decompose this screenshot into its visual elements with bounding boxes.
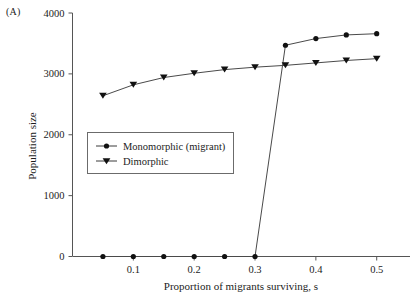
data-point-marker [100,254,105,259]
series-dimorphic [99,56,380,99]
x-axis-title: Proportion of migrants surviving, s [164,280,318,292]
data-point-marker [344,32,349,37]
y-tick-label: 3000 [44,68,65,79]
data-point-marker [374,31,379,36]
legend-marker-circle [104,143,109,148]
y-tick-label: 4000 [44,8,65,19]
data-point-marker [192,254,197,259]
data-point-marker [131,254,136,259]
figure-panel-a: (A) 01000200030004000 0.10.20.30.40.5 Pr… [0,0,415,301]
data-point-marker [252,254,257,259]
data-point-marker [161,254,166,259]
legend-label-monomorphic: Monomorphic (migrant) [123,141,226,153]
y-axis-title: Population size [26,112,38,180]
x-axis-ticks: 0.10.20.30.40.5 [127,257,383,275]
x-tick-label: 0.2 [188,264,201,275]
x-tick-label: 0.1 [127,264,140,275]
data-point-marker [313,36,318,41]
data-point-marker [130,82,138,88]
y-tick-label: 1000 [44,190,65,201]
x-tick-label: 0.4 [309,264,323,275]
population-size-line-chart: 01000200030004000 0.10.20.30.40.5 Propor… [0,0,415,301]
chart-legend: Monomorphic (migrant) Dimorphic [88,133,234,174]
series-path [103,59,377,96]
x-tick-label: 0.3 [248,264,261,275]
data-point-marker [283,43,288,48]
y-tick-label: 0 [59,251,64,262]
legend-box [88,133,234,174]
legend-label-dimorphic: Dimorphic [123,156,169,167]
y-tick-label: 2000 [44,129,65,140]
x-tick-label: 0.5 [370,264,383,275]
y-axis-ticks: 01000200030004000 [44,8,73,263]
data-point-marker [222,254,227,259]
data-point-marker [99,93,107,99]
